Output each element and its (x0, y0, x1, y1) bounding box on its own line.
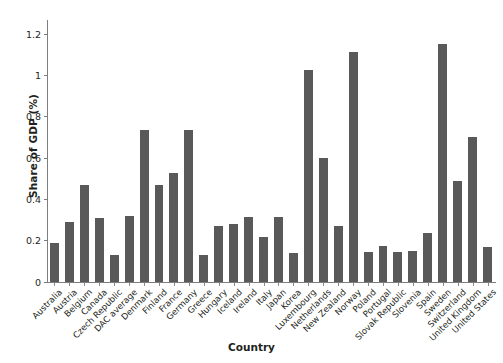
bar-chart: Share of GDP (%) 00.20.40.60.811.2 Austr… (0, 0, 503, 363)
x-tick-mark (219, 283, 220, 286)
x-tick-label: Netherlands (289, 287, 333, 331)
bar (125, 20, 134, 282)
bar-rect (304, 70, 313, 282)
bar (214, 20, 223, 282)
bar (259, 20, 268, 282)
bar (95, 20, 104, 282)
bar (274, 20, 283, 282)
x-tick-mark (174, 283, 175, 286)
x-tick-mark (278, 283, 279, 286)
y-tick-label: 1.2 (26, 29, 41, 40)
bar-rect (483, 247, 492, 282)
x-tick-mark (323, 283, 324, 286)
x-tick-label: Spain (414, 287, 438, 311)
x-tick-label: Italy (253, 287, 273, 307)
y-tick-label: 0.8 (26, 111, 41, 122)
x-tick-label: Norway (333, 287, 363, 317)
bar-rect (95, 218, 104, 282)
bar-rect (289, 253, 298, 282)
bar-rect (364, 252, 373, 282)
bar-rect (125, 216, 134, 282)
bar (468, 20, 477, 282)
bar (155, 20, 164, 282)
x-tick-mark (383, 283, 384, 286)
bar-rect (229, 224, 238, 282)
x-tick-mark (308, 283, 309, 286)
bar-rect (155, 185, 164, 282)
bar (169, 20, 178, 282)
bar (423, 20, 432, 282)
x-tick-label: Hungary (196, 287, 229, 320)
bar (140, 20, 149, 282)
bar-rect (453, 181, 462, 282)
bar (65, 20, 74, 282)
x-tick-label: Ireland (231, 287, 259, 315)
x-tick-label: France (157, 287, 184, 314)
bar (334, 20, 343, 282)
x-tick-mark (189, 283, 190, 286)
x-tick-mark (473, 283, 474, 286)
x-tick-mark (159, 283, 160, 286)
x-tick-mark (458, 283, 459, 286)
bar-rect (349, 52, 358, 282)
y-tick-label: 0 (35, 277, 41, 288)
x-tick-mark (204, 283, 205, 286)
bar-rect (184, 130, 193, 282)
x-axis-title: Country (0, 341, 503, 353)
bar-rect (50, 243, 59, 282)
bar-rect (468, 137, 477, 282)
bar-rect (80, 185, 89, 282)
x-tick-mark (413, 283, 414, 286)
x-tick-mark (84, 283, 85, 286)
bar-rect (408, 251, 417, 282)
bar-rect (244, 217, 253, 282)
x-tick-mark (54, 283, 55, 286)
bar (50, 20, 59, 282)
bar-rect (110, 255, 119, 282)
x-tick-label: Australia (31, 287, 65, 321)
x-tick-label: Belgium (62, 287, 94, 319)
x-tick-label: United Kingdom (427, 287, 483, 343)
bar-rect (65, 222, 74, 282)
x-tick-mark (234, 283, 235, 286)
bar-rect (438, 44, 447, 282)
bar-rect (169, 173, 178, 282)
bar (80, 20, 89, 282)
bar (304, 20, 313, 282)
bar-rect (393, 252, 402, 282)
x-tick-mark (129, 283, 130, 286)
x-tick-mark (249, 283, 250, 286)
x-tick-label: Denmark (119, 287, 154, 322)
bar (319, 20, 328, 282)
x-tick-label: Germany (164, 287, 199, 322)
x-tick-mark (99, 283, 100, 286)
x-tick-mark (368, 283, 369, 286)
bar (364, 20, 373, 282)
x-tick-label: Canada (79, 287, 109, 317)
x-tick-label: Luxembourg (273, 287, 318, 332)
bar-rect (259, 237, 268, 282)
x-tick-mark (443, 283, 444, 286)
x-tick-label: Portugal (361, 287, 393, 319)
plot-area (47, 20, 495, 282)
bar (289, 20, 298, 282)
y-tick-label: 0.2 (26, 235, 41, 246)
x-tick-mark (488, 283, 489, 286)
x-tick-label: Slovak Republic (353, 287, 408, 342)
x-tick-mark (398, 283, 399, 286)
x-tick-label: New Zealand (301, 287, 348, 334)
x-tick-label: Greece (185, 287, 214, 316)
bar-rect (334, 226, 343, 282)
bar (184, 20, 193, 282)
x-tick-mark (353, 283, 354, 286)
x-tick-mark (428, 283, 429, 286)
x-tick-mark (144, 283, 145, 286)
bar (408, 20, 417, 282)
bar-rect (379, 246, 388, 282)
bar-rect (274, 217, 283, 282)
x-tick-label: Austria (51, 287, 80, 316)
x-tick-label: DAC average (92, 287, 139, 334)
x-tick-label: Slovenia (390, 287, 423, 320)
bar-rect (214, 226, 223, 282)
x-tick-label: Switzerland (425, 287, 468, 330)
